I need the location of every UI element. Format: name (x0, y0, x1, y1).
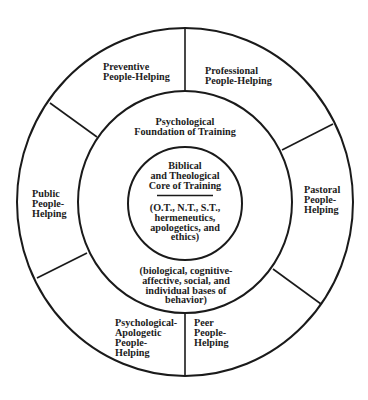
segment-public: Public People- Helping (32, 188, 67, 219)
divider-upper-left (50, 103, 97, 137)
foundation-title-line: Foundation of Training (134, 126, 236, 137)
core-detail-line: ethics) (171, 231, 199, 243)
svg-text:Core of Training: Core of Training (149, 180, 221, 191)
segment-professional: Professional People-Helping (205, 65, 272, 86)
middle-ring-title: Psychological Foundation of Training (134, 116, 236, 137)
inner-core-label: Biblical and Theological Core of Trainin… (149, 160, 221, 191)
divider-upper-right (282, 124, 333, 150)
segment-label-line: Helping (304, 204, 339, 215)
segment-label-line: People-Helping (103, 71, 170, 82)
concentric-training-diagram: Biblical and Theological Core of Trainin… (0, 0, 368, 400)
inner-core-details: (O.T., N.T., S.T., hermeneutics, apologe… (150, 202, 221, 243)
segment-pastoral: Pastoral People- Helping (304, 184, 340, 215)
svg-text:Helping: Helping (32, 208, 67, 219)
svg-text:behavior): behavior) (165, 294, 207, 306)
svg-text:Helping: Helping (194, 337, 229, 348)
divider-lower-left (37, 253, 87, 278)
middle-ring-details: (biological, cognitive- affective, socia… (140, 265, 233, 306)
svg-text:People-Helping: People-Helping (103, 71, 170, 82)
svg-text:People-Helping: People-Helping (205, 75, 272, 86)
svg-text:ethics): ethics) (171, 231, 199, 243)
segment-label-line: Helping (115, 347, 150, 358)
divider-lower-right (273, 269, 321, 304)
segment-preventive: Preventive People-Helping (103, 61, 170, 82)
segment-label-line: Helping (32, 208, 67, 219)
foundation-detail-line: behavior) (165, 294, 207, 306)
core-title-line: Core of Training (149, 180, 221, 191)
svg-text:Helping: Helping (304, 204, 339, 215)
segment-label-line: Helping (194, 337, 229, 348)
svg-text:Helping: Helping (115, 347, 150, 358)
segment-peer: Peer People- Helping (194, 317, 229, 348)
segment-label-line: People-Helping (205, 75, 272, 86)
segment-psychological-apologetic: Psychological- Apologetic People- Helpin… (115, 317, 178, 358)
svg-text:Foundation of Training: Foundation of Training (134, 126, 236, 137)
